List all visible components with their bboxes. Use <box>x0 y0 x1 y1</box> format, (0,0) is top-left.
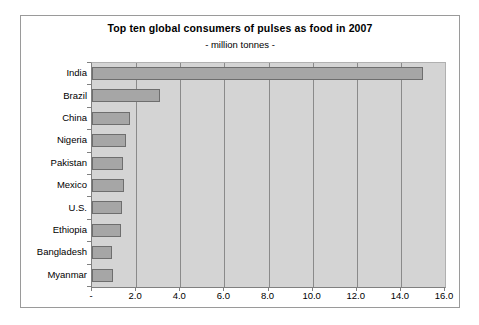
value-label-14: 14.0 <box>391 290 410 301</box>
chart-title-block: Top ten global consumers of pulses as fo… <box>21 22 459 51</box>
category-label-india: India <box>21 67 87 78</box>
bar-row <box>92 242 445 264</box>
plot-area <box>91 62 446 288</box>
category-label-ethiopia: Ethiopia <box>21 224 87 235</box>
value-label-0: - <box>89 290 92 301</box>
bar-mexico <box>92 179 124 192</box>
bar-row <box>92 130 445 152</box>
bar-india <box>92 67 423 80</box>
chart-subtitle: - million tonnes - <box>21 38 459 51</box>
bar-row <box>92 265 445 287</box>
bar-series <box>92 63 445 287</box>
category-label-china: China <box>21 112 87 123</box>
category-label-bangladesh: Bangladesh <box>21 246 87 257</box>
bar-row <box>92 197 445 219</box>
bar-row <box>92 220 445 242</box>
value-label-12: 12.0 <box>347 290 366 301</box>
bar-row <box>92 85 445 107</box>
bar-brazil <box>92 89 160 102</box>
chart-frame: Top ten global consumers of pulses as fo… <box>20 15 460 308</box>
value-label-8: 8.0 <box>261 290 274 301</box>
category-label-u-s: U.S. <box>21 202 87 213</box>
category-label-nigeria: Nigeria <box>21 134 87 145</box>
bar-ethiopia <box>92 224 121 237</box>
bar-bangladesh <box>92 246 112 259</box>
bar-row <box>92 153 445 175</box>
bar-u-s <box>92 201 122 214</box>
value-label-10: 10.0 <box>302 290 321 301</box>
value-label-2: 2.0 <box>129 290 142 301</box>
bar-pakistan <box>92 157 123 170</box>
bar-myanmar <box>92 269 113 282</box>
category-label-pakistan: Pakistan <box>21 157 87 168</box>
chart-screenshot: Top ten global consumers of pulses as fo… <box>0 0 479 325</box>
value-axis-labels: -2.04.06.08.010.012.014.016.0 <box>91 290 444 304</box>
value-label-4: 4.0 <box>173 290 186 301</box>
value-label-16: 16.0 <box>435 290 454 301</box>
category-axis-labels: IndiaBrazilChinaNigeriaPakistanMexicoU.S… <box>21 62 87 286</box>
bar-china <box>92 112 130 125</box>
category-label-brazil: Brazil <box>21 90 87 101</box>
category-label-myanmar: Myanmar <box>21 269 87 280</box>
value-label-6: 6.0 <box>217 290 230 301</box>
bar-row <box>92 108 445 130</box>
category-label-mexico: Mexico <box>21 179 87 190</box>
bar-row <box>92 175 445 197</box>
bar-nigeria <box>92 134 126 147</box>
bar-row <box>92 63 445 85</box>
chart-title: Top ten global consumers of pulses as fo… <box>21 22 459 35</box>
